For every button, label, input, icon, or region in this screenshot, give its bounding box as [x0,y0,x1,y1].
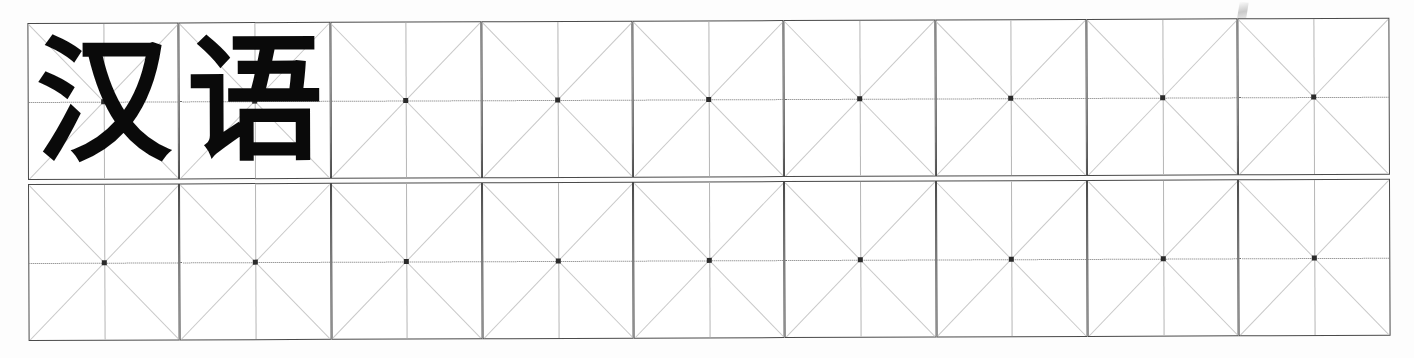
center-dot-icon [857,96,862,101]
center-dot-icon [403,98,408,103]
grid-cell[interactable] [1086,18,1238,176]
diagonal-line-icon [1088,19,1237,175]
horizontal-midline-icon [936,97,1085,99]
worksheet-page: 汉 语 [0,0,1414,358]
diagonal-line-icon [1088,180,1237,336]
diagonal-line-icon [1239,19,1388,175]
diagonal-line-icon [785,20,934,176]
diagonal-line-icon [331,23,482,178]
vertical-midline-icon [1163,181,1165,336]
vertical-midline-icon [1314,180,1316,335]
center-dot-icon [858,257,863,262]
center-dot-icon [1009,256,1014,261]
diagonal-line-icon [29,185,180,340]
diagonal-line-icon [784,21,935,176]
grid-cell[interactable] [936,180,1088,338]
diagonal-line-icon [937,181,1086,337]
horizontal-midline-icon [483,260,632,262]
center-dot-icon [707,257,712,262]
diagonal-line-icon [936,20,1087,175]
center-dot-icon [1009,95,1014,100]
diagonal-line-icon [482,22,633,177]
horizontal-midline-icon [331,100,480,102]
center-dot-icon [1311,94,1316,99]
diagonal-line-icon [331,184,482,339]
diagonal-line-icon [1088,181,1239,336]
horizontal-midline-icon [634,260,783,262]
vertical-midline-icon [557,22,559,177]
horizontal-midline-icon [1239,96,1388,98]
diagonal-line-icon [785,182,936,337]
grid-cell[interactable] [331,182,483,340]
horizontal-midline-icon [786,259,935,261]
vertical-midline-icon [406,23,408,178]
grid-row [28,179,1391,341]
diagonal-line-icon [634,182,785,337]
grid-cell[interactable]: 汉 [27,22,179,180]
horizontal-midline-icon [634,99,783,101]
grid-cell[interactable] [28,183,180,341]
vertical-midline-icon [860,21,862,176]
diagonal-line-icon [331,22,480,178]
center-dot-icon [404,259,409,264]
grid-cell[interactable] [482,182,634,340]
grid-cell[interactable] [179,183,331,341]
grid-cell[interactable] [633,20,785,178]
center-dot-icon [706,96,711,101]
vertical-midline-icon [558,183,560,338]
diagonal-line-icon [936,181,1087,336]
diagonal-line-icon [29,184,178,340]
vertical-midline-icon [406,184,408,339]
center-dot-icon [1161,256,1166,261]
diagonal-line-icon [1240,180,1389,336]
grid-cell[interactable] [935,19,1087,177]
horizontal-midline-icon [181,261,330,263]
vertical-midline-icon [708,21,710,176]
vertical-midline-icon [860,182,862,337]
diagonal-line-icon [1087,20,1238,175]
diagonal-line-icon [483,183,634,338]
vertical-midline-icon [1011,181,1013,336]
cell-character: 语 [180,23,330,179]
grid-cell[interactable] [1238,179,1390,337]
grid-cell[interactable] [1087,179,1239,337]
diagonal-line-icon [936,20,1085,176]
diagonal-line-icon [634,182,783,338]
diagonal-line-icon [786,181,935,337]
horizontal-midline-icon [1240,257,1389,259]
grid-cell[interactable] [1238,18,1390,176]
horizontal-midline-icon [29,262,178,264]
grid-cell[interactable] [784,181,936,339]
center-dot-icon [253,259,258,264]
diagonal-line-icon [634,21,783,177]
center-dot-icon [555,258,560,263]
diagonal-line-icon [180,184,331,339]
horizontal-midline-icon [937,258,1086,260]
diagonal-line-icon [483,183,632,339]
vertical-midline-icon [1162,20,1164,175]
grid-cell[interactable] [784,20,936,178]
grid-cell[interactable]: 语 [179,22,331,180]
center-dot-icon [555,97,560,102]
center-dot-icon [101,260,106,265]
character-practice-grid: 汉 语 [27,18,1390,341]
horizontal-midline-icon [1088,258,1237,260]
grid-cell[interactable] [330,21,482,179]
vertical-midline-icon [709,182,711,337]
vertical-midline-icon [1011,20,1013,175]
grid-cell[interactable] [633,181,785,339]
vertical-midline-icon [1313,19,1315,174]
horizontal-midline-icon [332,261,481,263]
vertical-midline-icon [255,184,257,339]
diagonal-line-icon [1239,180,1390,335]
horizontal-midline-icon [785,98,934,100]
center-dot-icon [1312,255,1317,260]
grid-row: 汉 语 [27,18,1390,180]
vertical-midline-icon [104,185,106,340]
diagonal-line-icon [181,184,330,340]
horizontal-midline-icon [1088,97,1237,99]
diagonal-line-icon [482,22,631,178]
center-dot-icon [1160,95,1165,100]
grid-cell[interactable] [481,21,633,179]
diagonal-line-icon [332,183,481,339]
